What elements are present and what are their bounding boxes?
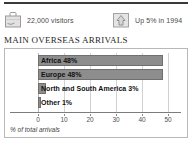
chart-container: Africa 48%Europe 48%North and South Amer… <box>4 48 188 138</box>
tick-label: 40 <box>138 116 145 123</box>
bar-label: Africa 48% <box>41 56 77 65</box>
tick-label: 30 <box>112 116 119 123</box>
chart-title: MAIN OVERSEAS ARRIVALS <box>4 35 128 45</box>
plot-area: Africa 48%Europe 48%North and South Amer… <box>10 53 184 134</box>
header-stats-row: 22,000 visitors Up 5% in 1994 <box>4 8 190 32</box>
top-divider <box>4 2 188 4</box>
bar-row: Other 1% <box>10 97 181 108</box>
bar-row: Europe 48% <box>10 69 181 80</box>
bar-label: Other 1% <box>41 98 72 107</box>
tick-label: 20 <box>86 116 93 123</box>
x-axis-line <box>10 112 181 113</box>
stat-trend: Up 5% in 1994 <box>112 8 182 32</box>
tick-label: 50 <box>164 116 171 123</box>
bar-row: North and South America 3% <box>10 83 181 94</box>
stat-visitors: 22,000 visitors <box>4 8 74 32</box>
x-axis-ticks: 01020304050 <box>10 114 181 124</box>
stat-visitors-label: 22,000 visitors <box>27 17 74 24</box>
tick-label: 0 <box>36 116 40 123</box>
suitcase-icon <box>4 10 22 30</box>
bar-row: Africa 48% <box>10 55 181 66</box>
up-arrow-icon <box>112 10 130 30</box>
tick-label: 10 <box>60 116 67 123</box>
infographic-page: 22,000 visitors Up 5% in 1994 MAIN OVERS… <box>0 0 192 142</box>
bar-label: Europe 48% <box>41 70 82 79</box>
x-axis-label: % of total arrivals <box>10 126 60 133</box>
bar-label: North and South America 3% <box>41 84 139 93</box>
bar-series: Africa 48%Europe 48%North and South Amer… <box>10 53 184 112</box>
stat-trend-label: Up 5% in 1994 <box>135 17 182 24</box>
